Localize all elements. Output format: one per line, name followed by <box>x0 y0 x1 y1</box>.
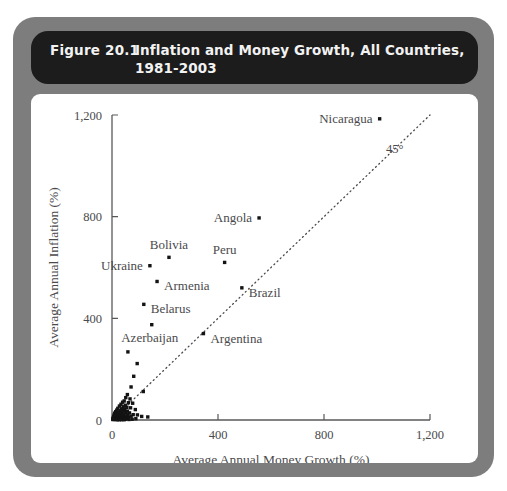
x-tick-label: 800 <box>315 428 334 442</box>
y-tick-label: 1,200 <box>74 109 102 123</box>
data-point <box>134 417 137 420</box>
data-point <box>146 415 149 418</box>
data-point-labeled <box>257 216 260 219</box>
point-label-brazil: Brazil <box>249 285 281 300</box>
tick-labels: 04008001,20004008001,200 <box>74 109 444 443</box>
point-labels: NicaraguaAngolaBoliviaPeruUkraineArmenia… <box>101 111 373 345</box>
y-tick-label: 400 <box>83 312 102 326</box>
data-point <box>126 350 129 353</box>
data-point-labeled <box>378 117 381 120</box>
data-point-labeled <box>148 264 151 267</box>
point-label-peru: Peru <box>213 242 237 257</box>
figure-container: Figure 20.1 Inflation and Money Growth, … <box>0 0 507 491</box>
point-label-ukraine: Ukraine <box>101 258 143 273</box>
data-point <box>140 415 143 418</box>
point-label-bolivia: Bolivia <box>150 237 189 252</box>
data-point-labeled <box>240 286 243 289</box>
data-point <box>129 406 132 409</box>
data-point-labeled <box>150 323 153 326</box>
data-point-labeled <box>223 261 226 264</box>
data-point <box>132 375 135 378</box>
data-point <box>130 418 133 421</box>
scatter-plot: 45° NicaraguaAngolaBoliviaPeruUkraineArm… <box>31 94 478 463</box>
data-point <box>134 408 137 411</box>
point-label-angola: Angola <box>214 210 253 225</box>
figure-title-bar: Figure 20.1 Inflation and Money Growth, … <box>31 31 478 84</box>
data-point <box>124 396 127 399</box>
x-axis-title: Average Annual Money Growth (%) <box>173 452 370 463</box>
x-tick-label: 1,200 <box>416 428 444 442</box>
data-point <box>127 418 130 421</box>
data-point-labeled <box>142 303 145 306</box>
point-label-armenia: Armenia <box>164 278 210 293</box>
data-point <box>128 397 131 400</box>
data-point <box>122 418 125 421</box>
data-point <box>135 362 138 365</box>
data-point <box>126 393 129 396</box>
y-tick-label: 800 <box>83 210 102 224</box>
data-point <box>131 402 134 405</box>
reference-line-45deg: 45° <box>112 115 430 420</box>
data-point <box>136 413 139 416</box>
point-label-azerbaijan: Azerbaijan <box>121 330 179 345</box>
data-point <box>127 401 130 404</box>
data-point <box>129 385 132 388</box>
plot-card: 45° NicaraguaAngolaBoliviaPeruUkraineArm… <box>31 94 478 463</box>
data-point-labeled <box>202 332 205 335</box>
data-point-labeled <box>155 280 158 283</box>
figure-number: Figure 20.1 <box>50 42 139 58</box>
reference-line-label: 45° <box>386 142 404 156</box>
point-label-belarus: Belarus <box>151 301 191 316</box>
x-tick-label: 0 <box>109 428 115 442</box>
figure-title: Inflation and Money Growth, All Countrie… <box>135 42 465 77</box>
point-label-argentina: Argentina <box>210 331 262 346</box>
data-point <box>142 390 145 393</box>
data-points <box>111 117 381 421</box>
y-tick-label: 0 <box>96 414 102 428</box>
y-axis-title: Average Annual Inflation (%) <box>46 187 61 348</box>
point-label-nicaragua: Nicaragua <box>319 111 373 126</box>
data-point-labeled <box>167 256 170 259</box>
x-tick-label: 400 <box>209 428 228 442</box>
